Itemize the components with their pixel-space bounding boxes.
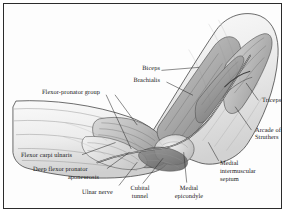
label-flexor-carpi-ulnaris: Flexor carpi ulnaris: [21, 152, 72, 159]
figure-frame: Biceps Brachialis Flexor-pronator group …: [3, 3, 282, 209]
label-medial-epicondyle-line1: Medial: [170, 185, 208, 192]
label-arcade-of-struthers-line2: Struthers: [255, 134, 279, 141]
label-cubital-tunnel-line2: tunnel: [124, 193, 156, 200]
figure-root: Biceps Brachialis Flexor-pronator group …: [0, 0, 286, 213]
label-medial-septum-line2: intermuscular: [220, 168, 256, 175]
label-deep-flexor-pronator-line1: Deep flexor pronator: [33, 166, 88, 173]
label-biceps: Biceps: [122, 65, 160, 72]
label-flexor-pronator-group: Flexor-pronator group: [42, 89, 100, 96]
label-deep-flexor-pronator-line2: aponeurosis: [33, 174, 99, 181]
label-ulnar-nerve: Ulnar nerve: [82, 189, 113, 196]
label-cubital-tunnel-line1: Cubital: [124, 185, 156, 192]
label-triceps: Triceps: [262, 97, 281, 104]
label-medial-septum-line1: Medial: [220, 160, 238, 167]
label-brachialis: Brachialis: [110, 77, 160, 84]
label-medial-epicondyle-line2: epicondyle: [166, 193, 212, 200]
label-medial-septum-line3: septum: [220, 176, 239, 183]
